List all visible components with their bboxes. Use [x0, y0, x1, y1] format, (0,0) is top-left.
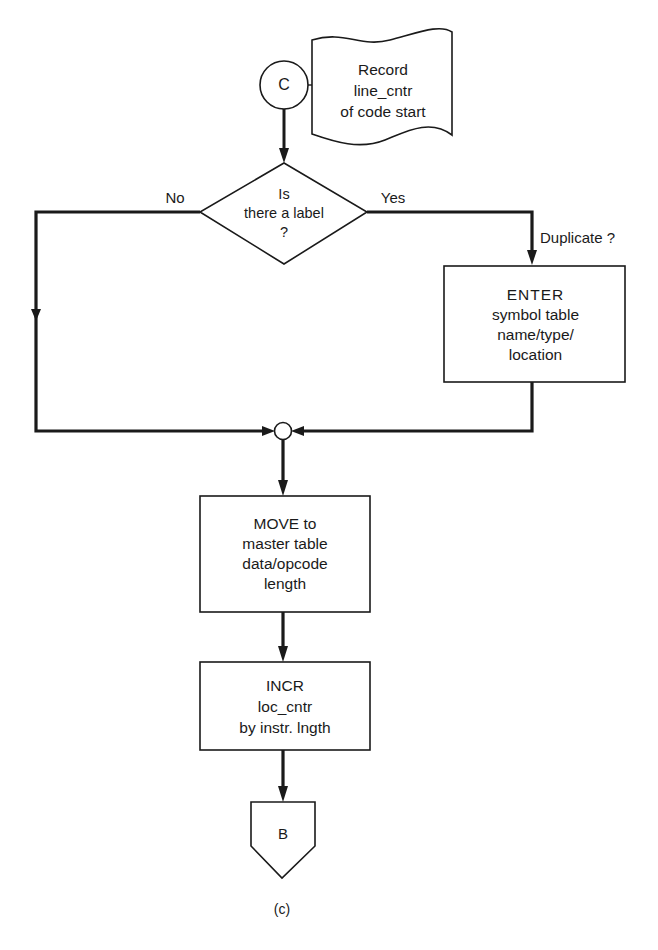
yes-branch-label: Yes — [373, 188, 413, 207]
decision-line-1: Is — [278, 185, 289, 204]
duplicate-label: Duplicate ? — [540, 228, 640, 247]
decision-text: Is there a label ? — [214, 180, 354, 246]
enter-line-4: location — [509, 345, 562, 365]
incr-box-text: INCR loc_cntr by instr. lngth — [200, 663, 370, 749]
connector-c-label: C — [264, 75, 304, 94]
enter-line-3: name/type/ — [497, 325, 574, 345]
move-line-4: length — [264, 574, 306, 594]
move-box-text: MOVE to master table data/opcode length — [200, 497, 370, 611]
move-line-3: data/opcode — [242, 554, 327, 574]
decision-line-2: there a label — [244, 204, 324, 223]
enter-box-text: ENTER symbol table name/type/ location — [446, 268, 625, 382]
move-line-1: MOVE to — [254, 514, 317, 534]
incr-line-1: INCR — [266, 675, 304, 696]
incr-line-3: by instr. lngth — [239, 717, 330, 738]
annotation-line-1: Record — [358, 59, 408, 80]
annotation-line-2: line_cntr — [354, 80, 413, 101]
figure-caption: (c) — [262, 900, 302, 919]
junction-circle — [275, 423, 292, 440]
enter-line-1: ENTER — [507, 285, 565, 305]
move-line-2: master table — [242, 534, 327, 554]
enter-line-2: symbol table — [492, 305, 579, 325]
connector-b-label: B — [263, 824, 303, 843]
flowchart-canvas — [0, 0, 658, 950]
annotation-text: Record line_cntr of code start — [314, 46, 452, 134]
annotation-line-3: of code start — [340, 101, 425, 122]
no-branch-label: No — [155, 188, 195, 207]
incr-line-2: loc_cntr — [258, 696, 312, 717]
decision-line-3: ? — [280, 223, 288, 242]
